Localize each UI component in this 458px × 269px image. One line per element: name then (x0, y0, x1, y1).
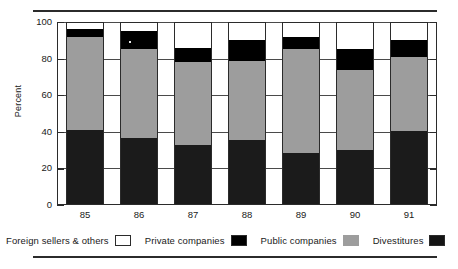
bar-series-group (58, 22, 436, 205)
y-tick-label-20: 20 (26, 163, 52, 173)
legend-label: Foreign sellers & others (6, 235, 109, 246)
legend-item-divestitures[interactable]: Divestitures (373, 235, 446, 246)
x-tick-label-89: 89 (274, 209, 328, 220)
clipped-title-remnant (168, 0, 288, 7)
bar-segment-85-public-companies[interactable] (66, 37, 104, 130)
bar-segment-89-public-companies[interactable] (282, 49, 320, 152)
stacked-bar-85[interactable] (66, 22, 104, 205)
legend-item-private-companies[interactable]: Private companies (145, 235, 247, 246)
bar-segment-89-private-companies[interactable] (282, 37, 320, 50)
bar-segment-85-divestitures[interactable] (66, 130, 104, 205)
bar-segment-87-foreign-sellers-others[interactable] (174, 22, 212, 48)
x-tick-label-87: 87 (166, 209, 220, 220)
y-axis-tick-labels: 020406080100 (26, 22, 52, 205)
y-tick-label-40: 40 (26, 127, 52, 137)
tick-mark-left-0 (57, 205, 64, 206)
bar-segment-87-divestitures[interactable] (174, 145, 212, 205)
bar-segment-91-divestitures[interactable] (390, 131, 428, 205)
bar-segment-86-private-companies[interactable] (120, 31, 158, 49)
x-tick-label-88: 88 (220, 209, 274, 220)
tick-mark-right-0 (430, 205, 437, 206)
bar-segment-88-foreign-sellers-others[interactable] (228, 22, 266, 40)
legend-item-foreign-sellers-others[interactable]: Foreign sellers & others (6, 235, 131, 246)
y-tick-label-100: 100 (26, 17, 52, 27)
x-tick-label-91: 91 (382, 209, 436, 220)
y-tick-label-80: 80 (26, 54, 52, 64)
bar-segment-90-public-companies[interactable] (336, 70, 374, 151)
bar-segment-90-divestitures[interactable] (336, 150, 374, 205)
gray-swatch-icon (343, 235, 359, 246)
bar-segment-88-divestitures[interactable] (228, 140, 266, 205)
legend-label: Divestitures (373, 235, 424, 246)
white-swatch-icon (115, 235, 131, 246)
y-axis-title: Percent (13, 71, 23, 131)
stacked-bar-90[interactable] (336, 22, 374, 205)
x-axis-tick-labels: 85868788899091 (58, 209, 436, 220)
stacked-bar-88[interactable] (228, 22, 266, 205)
bar-segment-87-private-companies[interactable] (174, 48, 212, 63)
bar-segment-89-foreign-sellers-others[interactable] (282, 22, 320, 37)
black-swatch-icon (231, 235, 247, 246)
bar-segment-90-private-companies[interactable] (336, 49, 374, 69)
bar-segment-88-public-companies[interactable] (228, 61, 266, 140)
bar-slot-87[interactable] (166, 22, 220, 205)
top-rule (33, 10, 437, 12)
stacked-bar-91[interactable] (390, 22, 428, 205)
y-tick-label-60: 60 (26, 90, 52, 100)
dark-swatch-icon (429, 235, 445, 246)
bar-segment-86-divestitures[interactable] (120, 138, 158, 205)
bar-slot-91[interactable] (382, 22, 436, 205)
bar-segment-91-private-companies[interactable] (390, 40, 428, 56)
bar-segment-87-public-companies[interactable] (174, 62, 212, 144)
bar-segment-88-private-companies[interactable] (228, 40, 266, 61)
chart-figure: Percent 020406080100 85868788899091 Fore… (0, 0, 458, 269)
stacked-bar-87[interactable] (174, 22, 212, 205)
bar-segment-85-foreign-sellers-others[interactable] (66, 22, 104, 29)
print-artifact-speck (129, 41, 131, 43)
bar-segment-89-divestitures[interactable] (282, 153, 320, 205)
legend-item-public-companies[interactable]: Public companies (261, 235, 359, 246)
y-tick-label-0: 0 (26, 200, 52, 210)
bar-slot-85[interactable] (58, 22, 112, 205)
bar-slot-86[interactable] (112, 22, 166, 205)
x-tick-label-86: 86 (112, 209, 166, 220)
x-tick-label-85: 85 (58, 209, 112, 220)
chart-legend: Foreign sellers & othersPrivate companie… (6, 232, 452, 248)
bottom-rule (33, 256, 437, 258)
bar-slot-88[interactable] (220, 22, 274, 205)
bar-segment-91-foreign-sellers-others[interactable] (390, 22, 428, 40)
x-tick-label-90: 90 (328, 209, 382, 220)
bar-segment-85-private-companies[interactable] (66, 29, 104, 36)
stacked-bar-89[interactable] (282, 22, 320, 205)
bar-slot-89[interactable] (274, 22, 328, 205)
bar-segment-90-foreign-sellers-others[interactable] (336, 22, 374, 49)
legend-label: Private companies (145, 235, 225, 246)
bar-slot-90[interactable] (328, 22, 382, 205)
bar-segment-86-public-companies[interactable] (120, 49, 158, 138)
legend-label: Public companies (261, 235, 337, 246)
stacked-bar-86[interactable] (120, 22, 158, 205)
bar-segment-86-foreign-sellers-others[interactable] (120, 22, 158, 31)
bar-segment-91-public-companies[interactable] (390, 57, 428, 131)
